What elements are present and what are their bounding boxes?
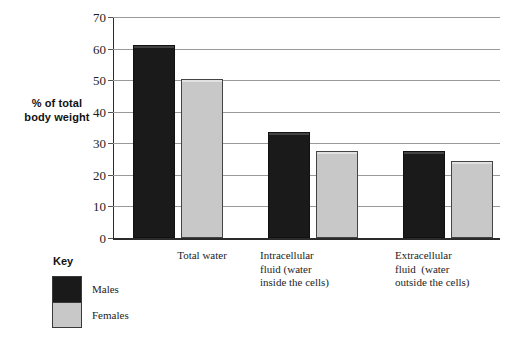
bar-top-sheen: [452, 162, 492, 164]
legend-label-males: Males: [92, 283, 119, 296]
y-axis-tick-mark: [108, 238, 113, 239]
y-axis-title-line-2: body weight: [14, 110, 100, 124]
bar-shadow: [454, 160, 494, 163]
y-axis-tick-mark: [108, 49, 113, 50]
x-axis-label-line: Extracellular: [395, 249, 515, 263]
bar-males-group-3: [403, 151, 445, 238]
bar-males-group-2: [268, 132, 310, 238]
plot-area: 010203040506070: [113, 17, 500, 239]
y-axis-title-line-1: % of total: [14, 96, 100, 110]
bar-shadow: [406, 150, 446, 153]
y-axis-tick-mark: [108, 175, 113, 176]
gridline: [113, 17, 500, 18]
bar-top-sheen: [182, 80, 222, 82]
bar-females-group-2: [316, 151, 358, 238]
x-axis-label-line: fluid (water: [395, 263, 515, 277]
legend-swatch-females: [53, 302, 81, 327]
bar-shadow: [136, 44, 176, 47]
y-axis-tick-label: 60: [93, 42, 106, 55]
bar-males-group-1: [133, 45, 175, 238]
legend-label-females: Females: [92, 309, 129, 322]
bar-top-sheen: [404, 152, 444, 154]
bar-top-sheen: [269, 133, 309, 135]
y-axis-tick-label: 20: [93, 168, 106, 181]
bar-top-sheen: [134, 46, 174, 48]
y-axis-title: % of total body weight: [14, 96, 100, 124]
y-axis-tick-label: 50: [93, 74, 106, 87]
x-axis-line: [113, 238, 500, 240]
y-axis-tick-mark: [108, 112, 113, 113]
x-axis-label-line: inside the cells): [260, 276, 370, 290]
legend-swatch-males: [53, 277, 81, 302]
bar-shadow: [319, 150, 359, 153]
y-axis-tick-mark: [108, 80, 113, 81]
y-axis-tick-label: 40: [93, 105, 106, 118]
x-axis-label-line: fluid (water: [260, 263, 370, 277]
legend-title: Key: [53, 255, 182, 267]
bar-chart-figure: % of total body weight 010203040506070 T…: [0, 0, 526, 354]
bar-top-sheen: [317, 152, 357, 154]
legend-key: Key Males Females: [52, 255, 182, 272]
y-axis-tick-mark: [108, 206, 113, 207]
y-axis-tick-mark: [108, 143, 113, 144]
x-axis-label-line: Intracellular: [260, 249, 370, 263]
x-axis-label-group-3: Extracellularfluid (wateroutside the cel…: [395, 249, 515, 290]
bar-shadow: [271, 131, 311, 134]
x-axis-label-group-2: Intracellularfluid (waterinside the cell…: [260, 249, 370, 290]
y-axis-tick-label: 0: [100, 232, 107, 245]
y-axis-tick-label: 70: [93, 11, 106, 24]
legend-swatch-stack: [52, 276, 82, 328]
bar-shadow: [184, 78, 224, 81]
y-axis-tick-label: 30: [93, 137, 106, 150]
y-axis-tick-mark: [108, 17, 113, 18]
y-axis-tick-label: 10: [93, 200, 106, 213]
x-axis-label-line: outside the cells): [395, 276, 515, 290]
bar-females-group-3: [451, 161, 493, 238]
bar-females-group-1: [181, 79, 223, 238]
